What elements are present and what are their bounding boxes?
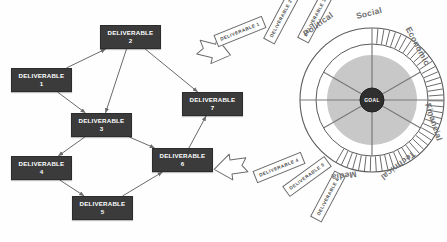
deliverable-node-number: 4 bbox=[40, 169, 44, 176]
deliverable-node-label: DELIVERABLE bbox=[19, 161, 65, 168]
deliverable-node-3[interactable]: DELIVERABLE3 bbox=[71, 113, 132, 137]
deliverable-node-4[interactable]: DELIVERABLE4 bbox=[11, 156, 72, 180]
edge-d3-d6 bbox=[129, 137, 154, 148]
flow-arrow-bottom bbox=[212, 152, 248, 182]
edge-d3-d4 bbox=[58, 137, 85, 156]
deliverable-node-number: 6 bbox=[181, 161, 185, 168]
edge-d6-d7 bbox=[189, 116, 206, 148]
edge-d2-d3 bbox=[106, 49, 127, 113]
edge-d1-d3 bbox=[58, 92, 86, 113]
deliverable-node-label: DELIVERABLE bbox=[190, 97, 236, 104]
goal-hub-label: GOAL bbox=[364, 97, 380, 103]
deliverable-node-5[interactable]: DELIVERABLE5 bbox=[72, 196, 133, 220]
edge-d5-d6 bbox=[123, 172, 163, 196]
deliverable-node-number: 7 bbox=[211, 105, 215, 112]
deliverable-node-number: 1 bbox=[40, 81, 44, 88]
deliverable-node-7[interactable]: DELIVERABLE7 bbox=[182, 92, 243, 116]
deliverable-node-label: DELIVERABLE bbox=[108, 30, 154, 37]
deliverable-node-label: DELIVERABLE bbox=[160, 153, 206, 160]
deliverable-node-number: 2 bbox=[129, 38, 133, 45]
deliverable-node-6[interactable]: DELIVERABLE6 bbox=[152, 148, 213, 172]
deliverable-node-number: 5 bbox=[101, 209, 105, 216]
deliverable-node-label: DELIVERABLE bbox=[80, 201, 126, 208]
deliverable-node-label: DELIVERABLE bbox=[79, 118, 125, 125]
deliverable-node-number: 3 bbox=[100, 126, 104, 133]
deliverable-node-1[interactable]: DELIVERABLE1 bbox=[11, 68, 72, 92]
edge-d1-d2 bbox=[66, 49, 105, 68]
edge-d2-d7 bbox=[145, 49, 198, 92]
diagram-canvas: DELIVERABLE1DELIVERABLE2DELIVERABLE3DELI… bbox=[0, 0, 447, 242]
deliverable-node-2[interactable]: DELIVERABLE2 bbox=[100, 25, 161, 49]
edge-d4-d5 bbox=[60, 180, 84, 196]
deliverable-node-label: DELIVERABLE bbox=[19, 73, 65, 80]
